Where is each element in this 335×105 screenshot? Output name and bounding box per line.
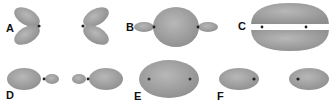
panel-label-f: F: [217, 90, 224, 102]
panel-label-b: B: [126, 21, 134, 33]
panel-e-orbitals: [139, 60, 199, 98]
panel-label-e: E: [134, 90, 141, 102]
panel-label-c: C: [238, 20, 246, 32]
panel-f-orbitals: [219, 68, 329, 90]
panel-label-d: D: [6, 89, 14, 101]
panel-b-orbitals: [134, 7, 218, 47]
orbital-diagram: [0, 0, 335, 105]
panel-c-orbitals: [251, 3, 329, 51]
panel-d-orbitals: [7, 68, 123, 90]
panel-a-orbitals: [11, 3, 112, 49]
panel-label-a: A: [6, 22, 14, 34]
